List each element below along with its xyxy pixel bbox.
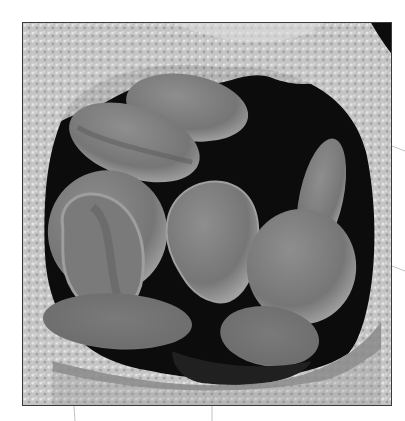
leader-line-right-1 — [392, 146, 405, 151]
red-blood-cells-image — [23, 23, 391, 405]
leader-line-bottom-1 — [74, 406, 75, 421]
micrograph-figure — [22, 22, 392, 406]
leader-line-right-2 — [392, 266, 405, 271]
